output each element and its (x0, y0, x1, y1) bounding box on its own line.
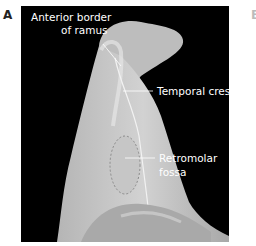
label-temporal-crest: Temporal crest (157, 85, 229, 97)
panel-label-b-partial: B (251, 8, 256, 22)
label-retromolar-line2: fossa (159, 166, 187, 178)
mandible-photo: Anterior border of ramus Temporal crest … (21, 6, 229, 242)
retromolar-fossa-outline (110, 136, 140, 194)
label-anterior-border-line1: Anterior border (31, 11, 111, 23)
label-anterior-border-line2: of ramus (61, 24, 108, 36)
panel-label-a: A (3, 8, 12, 22)
mandible-illustration (21, 6, 229, 242)
label-retromolar-line1: Retromolar (159, 152, 217, 164)
